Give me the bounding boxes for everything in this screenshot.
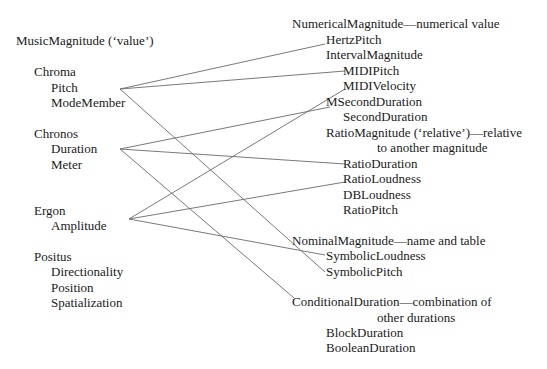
link-amplitude-midivelocity <box>129 89 345 219</box>
item-position: Position <box>51 280 94 295</box>
link-duration-conditionalduration <box>120 149 294 298</box>
ratio-magnitude-title: RatioMagnitude (‘relative’)—relative <box>326 125 522 140</box>
item-pitch: Pitch <box>51 80 78 95</box>
item-msecondduration: MSecondDuration <box>326 94 422 109</box>
item-symbolicpitch: SymbolicPitch <box>326 264 403 279</box>
item-ratioduration: RatioDuration <box>343 156 417 171</box>
item-ratioloudness: RatioLoudness <box>343 171 421 186</box>
item-duration: Duration <box>51 141 97 156</box>
item-midipitch: MIDIPitch <box>343 63 399 78</box>
conditional-duration-title: ConditionalDuration—combination of <box>292 294 492 309</box>
item-intervalmagnitude: IntervalMagnitude <box>326 47 423 62</box>
conditional-duration-title-cont: other durations <box>377 310 455 325</box>
group-chronos: Chronos <box>34 126 78 141</box>
music-magnitude-root: MusicMagnitude (‘value’) <box>16 33 154 48</box>
numerical-magnitude-title: NumericalMagnitude—numerical value <box>292 16 500 31</box>
item-spatialization: Spatialization <box>51 295 122 310</box>
connector-lines <box>0 0 547 369</box>
item-midivelocity: MIDIVelocity <box>343 78 416 93</box>
ratio-magnitude-title-cont: to another magnitude <box>377 140 487 155</box>
item-symbolicloudness: SymbolicLoudness <box>326 248 426 263</box>
link-pitch-hertzpitch <box>120 44 325 89</box>
item-modemember: ModeMember <box>51 95 125 110</box>
group-ergon: Ergon <box>34 203 66 218</box>
group-positus: Positus <box>34 249 72 264</box>
link-duration-msecondduration <box>120 107 330 149</box>
link-pitch-midipitch <box>120 71 345 89</box>
item-secondduration: SecondDuration <box>343 109 427 124</box>
item-amplitude: Amplitude <box>51 218 107 233</box>
item-dbloudness: DBLoudness <box>343 187 411 202</box>
group-chroma: Chroma <box>34 64 76 79</box>
item-hertzpitch: HertzPitch <box>326 32 382 47</box>
item-blockduration: BlockDuration <box>326 325 403 340</box>
link-amplitude-ratioloudness <box>129 182 345 219</box>
nominal-magnitude-title: NominalMagnitude—name and table <box>292 233 486 248</box>
item-booleanduration: BooleanDuration <box>326 340 416 355</box>
item-directionality: Directionality <box>51 264 123 279</box>
item-ratiopitch: RatioPitch <box>343 202 398 217</box>
item-meter: Meter <box>51 157 82 172</box>
